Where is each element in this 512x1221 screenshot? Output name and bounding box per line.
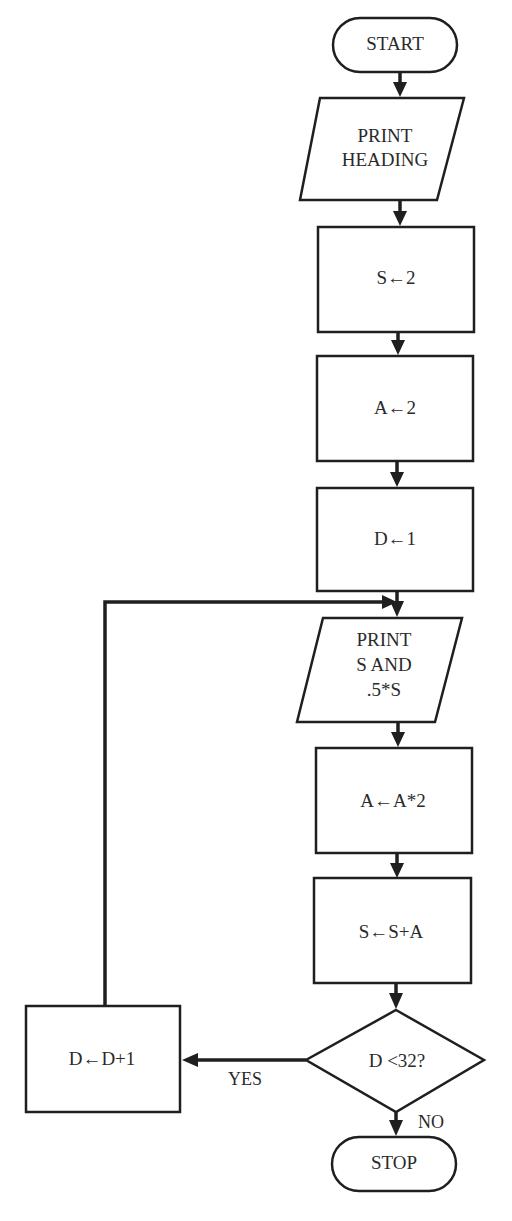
a-double-label: A←A*2 [360,790,425,811]
start-label: START [366,33,424,54]
d-inc-process: D←D+1 [26,1006,180,1112]
s-init-label: S←2 [376,267,415,288]
s-init-process: S←2 [318,227,474,332]
arrow-print-s-to-a-double [391,722,405,747]
print-heading-line-2: HEADING [342,149,429,170]
arrow-no: NO [389,1112,444,1136]
a-double-process: A←A*2 [316,748,472,853]
yes-label: YES [228,1069,262,1089]
start-terminator: START [333,18,457,72]
s-add-label: S←S+A [359,921,424,942]
no-label: NO [418,1112,444,1132]
flowchart: START PRINT HEADING S←2 A←2 D←1 [0,0,512,1221]
s-add-process: S←S+A [314,878,471,983]
decision-diamond: D <32? [306,1010,484,1112]
arrow-yes: YES [182,1053,306,1089]
print-s-line-3: .5*S [367,679,401,700]
arrow-start-to-heading [393,72,407,97]
d-init-label: D←1 [374,528,416,549]
arrow-s-init-to-a-init [391,332,405,355]
decision-label: D <32? [369,1050,426,1071]
d-init-process: D←1 [317,488,473,591]
print-heading-io: PRINT HEADING [300,98,464,200]
stop-terminator: STOP [332,1137,456,1191]
arrow-a-init-to-d-init [390,461,404,487]
print-heading-line-1: PRINT [358,125,413,146]
a-init-label: A←2 [374,397,416,418]
arrow-heading-to-s-init [393,200,407,226]
a-init-process: A←2 [317,356,473,461]
print-s-line-1: PRINT [357,629,412,650]
print-s-io: PRINT S AND .5*S [297,618,462,722]
stop-label: STOP [371,1152,417,1173]
arrow-s-add-to-decision [389,983,403,1009]
d-inc-label: D←D+1 [69,1048,136,1069]
arrow-a-double-to-s-add [390,853,404,878]
print-s-line-2: S AND [356,654,411,675]
